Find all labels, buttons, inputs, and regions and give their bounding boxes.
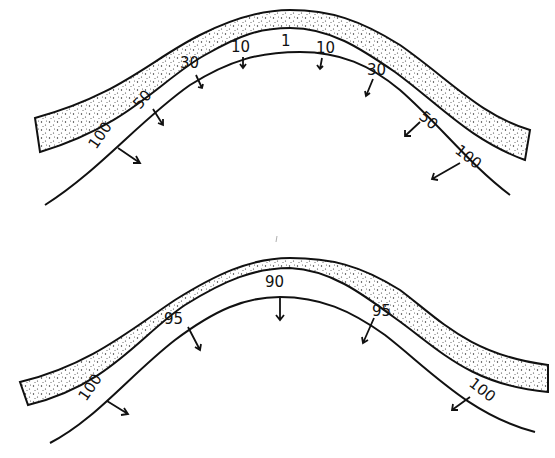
value-label: 30 <box>180 54 199 72</box>
stray-mark <box>276 236 277 242</box>
value-label: 10 <box>316 39 335 57</box>
arrow-icon <box>188 327 201 350</box>
value-label: 95 <box>164 310 183 328</box>
value-label: 10 <box>231 38 250 56</box>
arrow-icon <box>405 122 420 136</box>
arrow-icon <box>365 79 373 96</box>
fold-diagram-canvas: 100 50 30 10 1 10 30 50 100 100 95 90 95 <box>0 0 555 458</box>
arrow-icon <box>118 148 140 163</box>
bottom-inner-fold-line <box>50 297 535 443</box>
value-label: 50 <box>415 107 441 133</box>
value-label: 90 <box>265 273 284 291</box>
value-label: 95 <box>372 302 391 320</box>
arrow-icon <box>432 163 460 180</box>
arrow-icon <box>107 401 128 415</box>
arrow-icon <box>452 397 470 410</box>
bottom-fold-diagram: 100 95 90 95 100 <box>20 258 548 443</box>
value-label: 1 <box>281 32 291 50</box>
arrow-icon <box>317 58 323 69</box>
arrow-icon <box>276 298 284 320</box>
value-label: 30 <box>367 61 386 79</box>
top-fold-diagram: 100 50 30 10 1 10 30 50 100 <box>35 10 530 205</box>
